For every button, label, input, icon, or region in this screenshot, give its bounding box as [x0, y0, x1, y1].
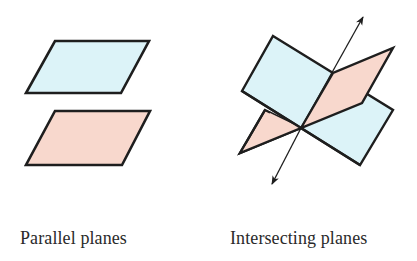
upper-parallel-plane: [26, 41, 149, 93]
intersecting-planes-caption: Intersecting planes: [230, 228, 367, 249]
lower-parallel-plane: [26, 111, 150, 165]
planes-diagram: [0, 0, 417, 261]
intersecting-planes-figure: [240, 17, 393, 184]
parallel-planes-figure: [26, 41, 150, 165]
parallel-planes-caption: Parallel planes: [20, 228, 127, 249]
